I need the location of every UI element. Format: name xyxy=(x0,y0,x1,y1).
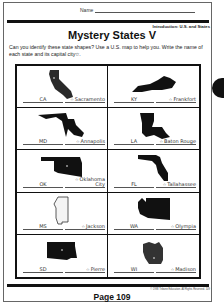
star-icon: ☆ xyxy=(163,182,167,187)
capital-answer[interactable]: ☆Annapolis xyxy=(65,139,105,145)
state-cell-md: MD ☆Annapolis xyxy=(17,108,108,150)
name-blank-line[interactable] xyxy=(95,7,195,13)
wisconsin-shape-icon xyxy=(139,238,169,268)
star-icon: ☆ xyxy=(75,177,79,182)
copyright-notice: © 1998 Tribune Education. All Rights Res… xyxy=(150,288,210,291)
star-icon: ☆ xyxy=(169,97,173,102)
states-grid: CA ☆Sacramento KY ☆Frankfort MD ☆Annapol… xyxy=(15,64,201,279)
star-icon: ☆ xyxy=(86,267,90,272)
name-field[interactable]: Name xyxy=(80,7,195,13)
star-icon: ☆ xyxy=(159,139,163,144)
capital-answer[interactable]: ☆Baton Rouge xyxy=(156,139,196,145)
state-cell-ms: MS ☆Jackson xyxy=(17,193,108,235)
state-abbr[interactable]: LA xyxy=(114,138,154,145)
louisiana-shape-icon xyxy=(136,111,172,141)
capital-answer[interactable]: ☆Madison xyxy=(156,267,196,273)
capital-answer[interactable]: ☆Oklahoma City xyxy=(65,177,105,188)
bottom-divider xyxy=(7,284,209,287)
capital-answer[interactable]: ☆Frankfort xyxy=(156,97,196,103)
maryland-shape-icon xyxy=(36,111,88,141)
state-abbr[interactable]: FL xyxy=(114,181,154,188)
star-icon: ☆ xyxy=(70,97,74,102)
state-abbr[interactable]: MS xyxy=(23,223,63,230)
page-number: Page 109 xyxy=(0,292,224,302)
capital-answer[interactable]: ☆Jackson xyxy=(65,224,105,230)
star-icon: ☆ xyxy=(171,267,175,272)
capital-answer[interactable]: ☆Pierre xyxy=(65,267,105,273)
name-label: Name xyxy=(80,7,93,13)
state-cell-sd: SD ☆Pierre xyxy=(17,235,108,277)
state-cell-wa: WA ☆Olympia xyxy=(108,193,199,235)
state-cell-ca: CA ☆Sacramento xyxy=(17,66,108,108)
capital-answer[interactable]: ☆Sacramento xyxy=(65,97,105,103)
state-cell-wi: WI ☆Madison xyxy=(108,235,199,277)
mississippi-shape-icon xyxy=(52,196,72,226)
south-dakota-shape-icon xyxy=(45,240,79,262)
page-tab-marker xyxy=(212,78,224,98)
washington-shape-icon xyxy=(136,196,172,224)
state-cell-la: LA ☆Baton Rouge xyxy=(108,108,199,150)
state-abbr[interactable]: CA xyxy=(23,96,63,103)
state-abbr[interactable]: KY xyxy=(114,96,154,103)
kentucky-shape-icon xyxy=(130,74,178,96)
top-divider xyxy=(7,20,209,23)
capital-answer[interactable]: ☆Tallahassee xyxy=(156,182,196,188)
state-abbr[interactable]: WI xyxy=(114,266,154,273)
state-cell-ok: OK ☆Oklahoma City xyxy=(17,150,108,192)
capital-answer[interactable]: ☆Olympia xyxy=(156,224,196,230)
star-icon: ☆ xyxy=(81,224,85,229)
page-title: Mystery States V xyxy=(0,29,224,41)
state-cell-fl: FL ☆Tallahassee xyxy=(108,150,199,192)
state-abbr[interactable]: MD xyxy=(23,138,63,145)
state-abbr[interactable]: SD xyxy=(23,266,63,273)
state-cell-ky: KY ☆Frankfort xyxy=(108,66,199,108)
star-icon: ☆ xyxy=(76,139,80,144)
state-abbr[interactable]: OK xyxy=(23,181,63,188)
instructions: Can you identify these state shapes? Use… xyxy=(9,44,209,57)
state-abbr[interactable]: WA xyxy=(114,223,154,230)
florida-shape-icon xyxy=(136,153,172,183)
star-icon: ☆ xyxy=(171,224,175,229)
